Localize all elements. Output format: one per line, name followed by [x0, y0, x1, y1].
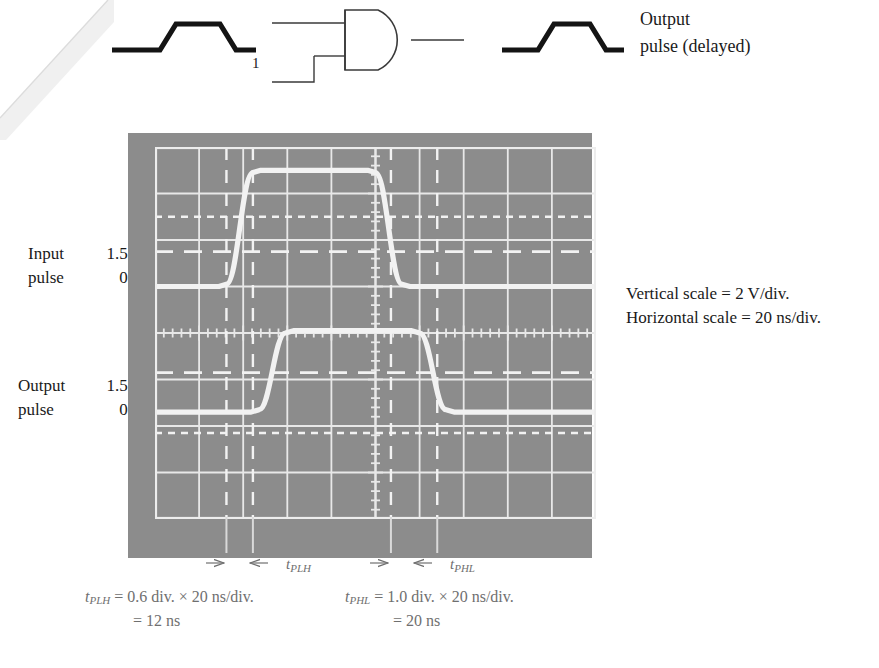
tphl-result: = 20 ns	[393, 609, 440, 633]
schematic-diagram: 1 Output pulse (delayed)	[0, 0, 879, 120]
tplh-equation: tPLH = 0.6 div. × 20 ns/div.	[85, 585, 254, 612]
scope-grid	[155, 147, 596, 519]
tplh-arrow-label: tPLH	[286, 556, 312, 574]
output-label: Output	[18, 374, 90, 397]
input-pulse-waveform	[108, 14, 258, 64]
scale-notes: Vertical scale = 2 V/div. Horizontal sca…	[626, 282, 876, 330]
tphl-arrow-label: tPHL	[450, 556, 475, 574]
vertical-scale-note: Vertical scale = 2 V/div.	[626, 282, 876, 306]
timing-measurement-arrows: tPLH tPHL	[120, 545, 600, 585]
output-pulse-waveform	[498, 14, 628, 64]
input-pulse-label: pulse	[28, 266, 90, 289]
tplh-result: = 12 ns	[133, 609, 180, 633]
tphl-equation: tPHL = 1.0 div. × 20 ns/div.	[345, 585, 514, 612]
scope-graticule-screen	[155, 147, 596, 519]
and-gate-symbol	[268, 6, 468, 84]
output-caption-line1: Output	[640, 9, 690, 29]
timing-equations: tPLH = 0.6 div. × 20 ns/div. = 12 ns tPH…	[85, 585, 605, 655]
horizontal-scale-note: Horizontal scale = 20 ns/div.	[626, 306, 876, 330]
output-caption-line2: pulse (delayed)	[640, 33, 870, 60]
oscilloscope-display	[128, 133, 592, 558]
output-pulse-label: pulse	[18, 398, 90, 421]
gate-input-constant-label: 1	[252, 55, 260, 72]
input-label: Input	[28, 242, 90, 265]
output-pulse-caption: Output pulse (delayed)	[640, 6, 870, 60]
